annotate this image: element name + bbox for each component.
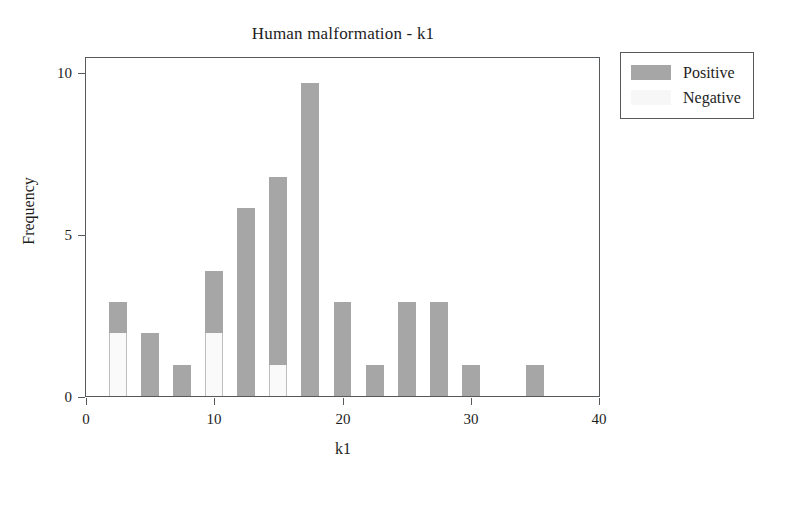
- y-axis-title: Frequency: [20, 121, 38, 301]
- positive-swatch-icon: [631, 65, 671, 80]
- x-tick-mark-20: [343, 398, 344, 405]
- bar-segment-positive: [109, 302, 127, 333]
- bar-segment-positive: [301, 83, 319, 396]
- y-tick-mark-5: [78, 235, 85, 236]
- chart-title: Human malformation - k1: [85, 24, 601, 44]
- plot-frame: [85, 57, 600, 397]
- y-tick-label-10: 10: [12, 66, 72, 81]
- bar-segment-positive: [398, 302, 416, 396]
- bar: [173, 365, 191, 396]
- bar-segment-positive: [237, 208, 255, 396]
- y-tick-label-5: 5: [12, 228, 72, 243]
- bar: [430, 302, 448, 396]
- x-tick-label-0: 0: [61, 412, 111, 427]
- x-tick-label-10: 10: [189, 412, 239, 427]
- bar-segment-positive: [430, 302, 448, 396]
- chart-legend: Positive Negative: [620, 52, 754, 119]
- bar: [301, 83, 319, 396]
- legend-label-negative: Negative: [683, 90, 741, 106]
- bar: [526, 365, 544, 396]
- legend-label-positive: Positive: [683, 65, 735, 81]
- x-tick-mark-10: [214, 398, 215, 405]
- plot-area: [86, 58, 599, 396]
- bar-segment-negative: [269, 365, 287, 396]
- bar-segment-negative: [205, 333, 223, 396]
- bar: [398, 302, 416, 396]
- legend-item-positive: Positive: [631, 60, 741, 85]
- x-tick-mark-40: [599, 398, 600, 405]
- bar-segment-positive: [334, 302, 352, 396]
- x-tick-label-20: 20: [318, 412, 368, 427]
- negative-swatch-icon: [631, 90, 671, 105]
- bar: [237, 208, 255, 396]
- bar: [269, 177, 287, 396]
- bar-segment-positive: [462, 365, 480, 396]
- x-tick-mark-0: [86, 398, 87, 405]
- x-tick-label-30: 30: [446, 412, 496, 427]
- bar-segment-positive: [205, 271, 223, 334]
- legend-item-negative: Negative: [631, 85, 741, 110]
- x-tick-mark-30: [471, 398, 472, 405]
- bar-segment-positive: [141, 333, 159, 396]
- bar: [334, 302, 352, 396]
- bar: [109, 302, 127, 396]
- bar-segment-positive: [366, 365, 384, 396]
- bar: [366, 365, 384, 396]
- y-tick-mark-10: [78, 73, 85, 74]
- x-axis-title: k1: [85, 440, 601, 458]
- y-tick-label-0: 0: [12, 390, 72, 405]
- bar-segment-negative: [109, 333, 127, 396]
- y-tick-mark-0: [78, 397, 85, 398]
- bar: [141, 333, 159, 396]
- bar: [462, 365, 480, 396]
- bar: [205, 271, 223, 396]
- bar-segment-positive: [526, 365, 544, 396]
- bar-segment-positive: [173, 365, 191, 396]
- bar-segment-positive: [269, 177, 287, 365]
- x-tick-label-40: 40: [574, 412, 624, 427]
- chart-figure: Human malformation - k1 Frequency 10 5 0…: [0, 0, 795, 511]
